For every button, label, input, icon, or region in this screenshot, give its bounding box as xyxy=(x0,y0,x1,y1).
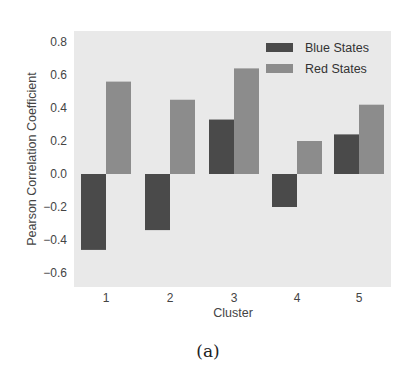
y-tick-label: 0.4 xyxy=(50,101,67,115)
figure-caption: (a) xyxy=(196,341,219,361)
bar-red-states-cluster-2 xyxy=(170,100,195,174)
bar-blue-states-cluster-4 xyxy=(272,174,297,207)
bar-red-states-cluster-5 xyxy=(359,105,384,174)
legend-swatch-red-states xyxy=(266,64,293,73)
y-tick-label: −0.6 xyxy=(43,266,67,280)
x-axis-label: Cluster xyxy=(213,306,253,320)
x-axis-ticks: 12345 xyxy=(103,291,363,305)
y-tick-label: −0.2 xyxy=(43,200,67,214)
bar-red-states-cluster-3 xyxy=(234,68,259,174)
y-tick-label: 0.6 xyxy=(50,68,67,82)
x-tick-label: 4 xyxy=(294,291,301,305)
legend-label: Blue States xyxy=(305,41,369,55)
bar-red-states-cluster-1 xyxy=(106,82,131,174)
y-axis-ticks: −0.6−0.4−0.20.00.20.40.60.8 xyxy=(43,35,67,280)
bar-blue-states-cluster-1 xyxy=(81,174,106,250)
x-tick-label: 3 xyxy=(231,291,238,305)
y-tick-label: −0.4 xyxy=(43,233,67,247)
y-axis-label: Pearson Correlation Coefficient xyxy=(25,72,39,246)
bar-red-states-cluster-4 xyxy=(297,141,322,174)
legend-swatch-blue-states xyxy=(266,43,293,52)
bar-blue-states-cluster-2 xyxy=(145,174,170,230)
bar-blue-states-cluster-3 xyxy=(209,120,234,174)
y-tick-label: 0.2 xyxy=(50,134,67,148)
y-tick-label: 0.0 xyxy=(50,167,67,181)
bar-chart: −0.6−0.4−0.20.00.20.40.60.8 12345 Pearso… xyxy=(0,0,410,383)
bar-blue-states-cluster-5 xyxy=(334,134,359,174)
x-tick-label: 1 xyxy=(103,291,110,305)
x-tick-label: 5 xyxy=(356,291,363,305)
y-tick-label: 0.8 xyxy=(50,35,67,49)
legend-label: Red States xyxy=(305,62,367,76)
x-tick-label: 2 xyxy=(167,291,174,305)
